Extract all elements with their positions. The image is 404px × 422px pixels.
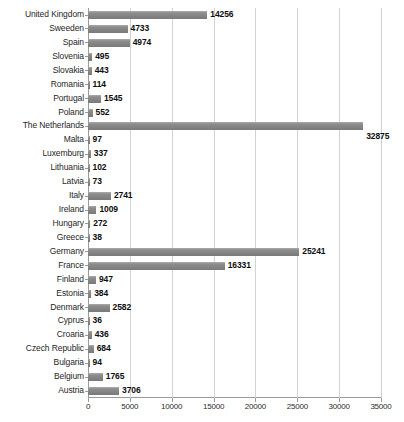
category-label: Germany xyxy=(0,245,84,259)
bar xyxy=(88,359,90,367)
x-axis-tick-label: 30000 xyxy=(329,402,350,411)
category-label: Sweeden xyxy=(0,22,84,36)
bar-value-label: 38 xyxy=(93,231,102,245)
category-label: Romania xyxy=(0,78,84,92)
category-label: Spain xyxy=(0,36,84,50)
x-axis-tick-label: 5000 xyxy=(121,402,138,411)
bar-row: Germany25241 xyxy=(0,245,404,259)
category-label: Malta xyxy=(0,133,84,147)
bar xyxy=(88,81,90,89)
x-axis-tick-label: 15000 xyxy=(203,402,224,411)
bar xyxy=(88,345,94,353)
category-label: Finland xyxy=(0,273,84,287)
bar-value-label: 16331 xyxy=(228,259,251,273)
bar xyxy=(88,39,130,47)
bar-row: Slovenia495 xyxy=(0,50,404,64)
bar-row: Finland947 xyxy=(0,273,404,287)
bar-value-label: 1009 xyxy=(99,203,118,217)
bar-row: United Kingdom14256 xyxy=(0,8,404,22)
bar xyxy=(88,317,90,325)
bar-value-label: 443 xyxy=(95,64,109,78)
category-label: Estonia xyxy=(0,287,84,301)
bar-value-label: 1545 xyxy=(104,92,123,106)
bar-value-label: 114 xyxy=(93,78,106,92)
bar-value-label: 97 xyxy=(93,133,102,147)
bar-row: The Netherlands32875 xyxy=(0,119,404,133)
bar-value-label: 337 xyxy=(94,147,108,161)
bar-value-label: 14256 xyxy=(210,8,233,22)
bar-value-label: 102 xyxy=(93,161,107,175)
bar-value-label: 3706 xyxy=(122,384,141,398)
bar xyxy=(88,53,92,61)
bar-value-label: 947 xyxy=(99,273,113,287)
bar-value-label: 36 xyxy=(93,314,102,328)
bar-row: Czech Republic684 xyxy=(0,342,404,356)
x-axis-tick-label: 20000 xyxy=(245,402,266,411)
bar xyxy=(88,11,207,19)
bar xyxy=(88,331,92,339)
bar xyxy=(88,206,96,214)
x-axis-tick-label: 35000 xyxy=(370,402,391,411)
bar-row: Italy2741 xyxy=(0,189,404,203)
bar xyxy=(88,234,90,242)
bar xyxy=(88,192,111,200)
bar-row: Denmark2582 xyxy=(0,301,404,315)
bar xyxy=(88,290,91,298)
category-label: Bulgaria xyxy=(0,356,84,370)
category-label: The Netherlands xyxy=(0,119,84,133)
bar xyxy=(88,262,225,270)
x-axis-tick-label: 10000 xyxy=(161,402,182,411)
horizontal-bar-chart: United Kingdom14256Sweeden4733Spain4974S… xyxy=(0,0,404,422)
bar-row: Ireland1009 xyxy=(0,203,404,217)
category-label: Hungary xyxy=(0,217,84,231)
category-label: Lithuania xyxy=(0,161,84,175)
bar-row: Luxemburg337 xyxy=(0,147,404,161)
category-label: Portugal xyxy=(0,92,84,106)
bar xyxy=(88,67,92,75)
bar xyxy=(88,178,90,186)
category-label: Luxemburg xyxy=(0,147,84,161)
x-axis-tick-label: 25000 xyxy=(287,402,308,411)
category-label: Denmark xyxy=(0,301,84,315)
bar xyxy=(88,122,363,130)
category-label: Slovakia xyxy=(0,64,84,78)
category-label: Greece xyxy=(0,231,84,245)
bar xyxy=(88,95,101,103)
bar xyxy=(88,164,90,172)
bar-value-label: 4974 xyxy=(133,36,152,50)
category-label: Italy xyxy=(0,189,84,203)
category-label: Slovenia xyxy=(0,50,84,64)
bar-row: Lithuania102 xyxy=(0,161,404,175)
bar-row: Sweeden4733 xyxy=(0,22,404,36)
bar-value-label: 1765 xyxy=(106,370,125,384)
bar-value-label: 4733 xyxy=(131,22,150,36)
bar-row: Greece38 xyxy=(0,231,404,245)
bar xyxy=(88,220,90,228)
x-axis-tick-label: 0 xyxy=(86,402,90,411)
bar-row: Latvia73 xyxy=(0,175,404,189)
bar-row: Hungary272 xyxy=(0,217,404,231)
bar-value-label: 384 xyxy=(94,287,108,301)
category-label: France xyxy=(0,259,84,273)
bar xyxy=(88,387,119,395)
bar-row: Belgium1765 xyxy=(0,370,404,384)
bar xyxy=(88,248,299,256)
bar-row: Estonia384 xyxy=(0,287,404,301)
bar xyxy=(88,373,103,381)
bar-value-label: 25241 xyxy=(302,245,325,259)
bar-value-label: 94 xyxy=(93,356,102,370)
bar xyxy=(88,150,91,158)
bar-value-label: 2741 xyxy=(114,189,133,203)
bar xyxy=(88,109,93,117)
category-label: Belgium xyxy=(0,370,84,384)
bar-value-label: 272 xyxy=(93,217,107,231)
bar-row: Portugal1545 xyxy=(0,92,404,106)
bar-row: France16331 xyxy=(0,259,404,273)
category-label: United Kingdom xyxy=(0,8,84,22)
bar-row: Malta97 xyxy=(0,133,404,147)
bar-row: Bulgaria94 xyxy=(0,356,404,370)
bar-row: Slovakia443 xyxy=(0,64,404,78)
bar-value-label: 73 xyxy=(93,175,102,189)
bar-row: Poland552 xyxy=(0,106,404,120)
bar xyxy=(88,25,128,33)
